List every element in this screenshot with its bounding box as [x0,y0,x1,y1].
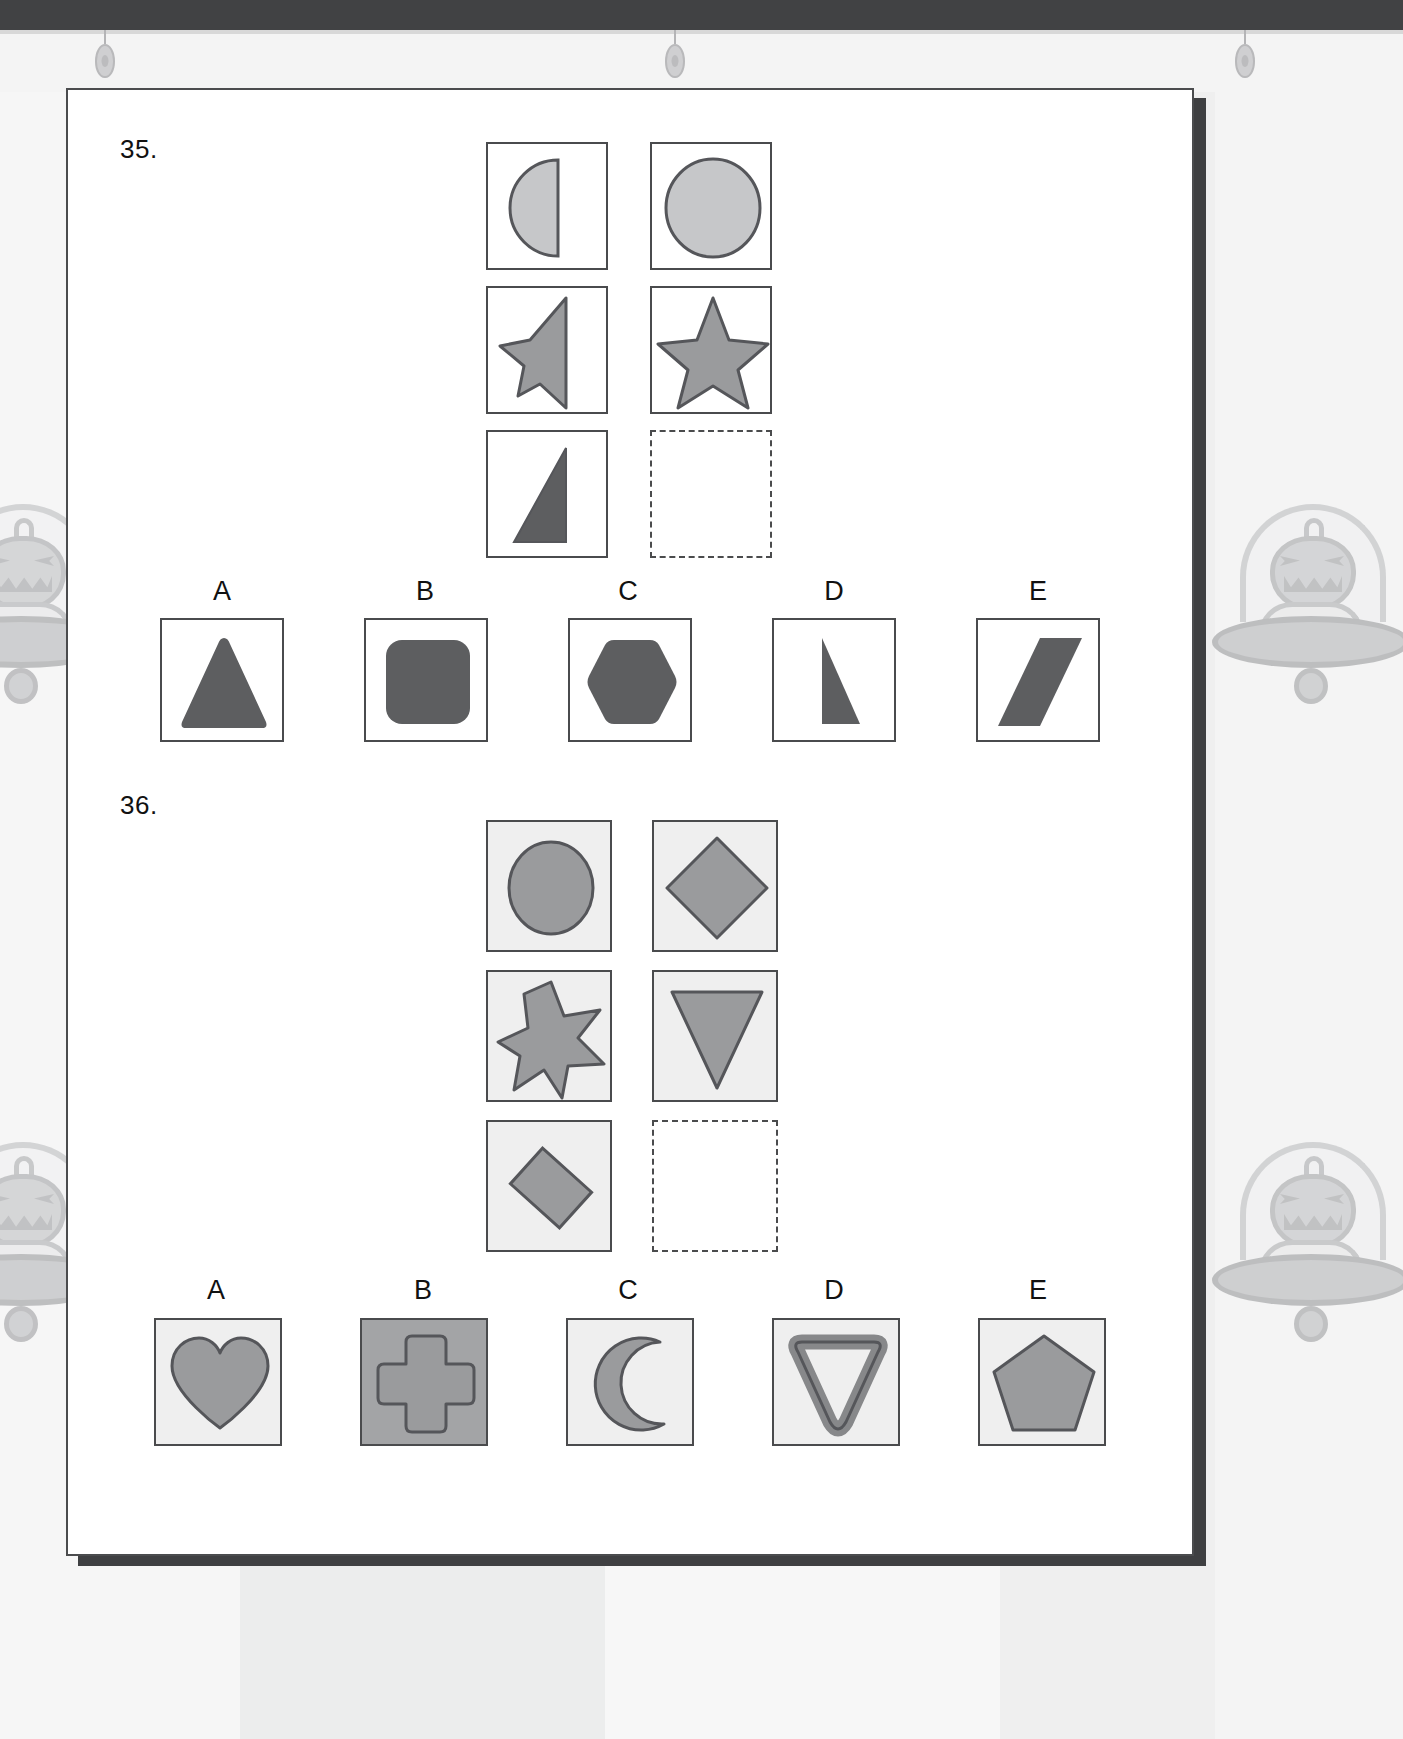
cross-shape [362,1320,490,1448]
seven-point-star-shape [488,972,614,1104]
pumpkin-ufo-icon [1206,498,1403,713]
lamp-bulb [95,44,115,78]
matrix-cell [486,286,608,414]
matrix-cell [652,970,778,1102]
circle-shape [488,822,614,954]
option-box-b-35[interactable] [364,618,488,742]
option-label-b: B [395,576,455,607]
tilted-rectangle-shape [488,1122,614,1254]
worksheet-page: 35. [66,88,1194,1556]
option-box-e-35[interactable] [976,618,1100,742]
option-box-c-36[interactable] [566,1318,694,1446]
triangle-outline-shape [774,1320,902,1448]
option-box-a-36[interactable] [154,1318,282,1446]
background-band [1215,92,1403,1739]
lamp-cord [674,30,676,44]
option-label-d: D [804,1275,864,1306]
option-label-a: A [186,1275,246,1306]
empty-answer-slot-35[interactable] [650,430,772,558]
option-box-d-36[interactable] [772,1318,900,1446]
question-number-36: 36. [120,790,158,821]
option-box-b-36[interactable] [360,1318,488,1446]
option-label-a: A [192,576,252,607]
matrix-cell [486,820,612,952]
down-triangle-shape [654,972,780,1104]
right-triangle-shape [774,620,898,744]
matrix-cell [652,820,778,952]
half-triangle-shape [488,432,610,560]
option-box-c-35[interactable] [568,618,692,742]
matrix-cell [486,970,612,1102]
parallelogram-shape [978,620,1102,744]
lamp-cord [104,30,106,44]
option-label-e: E [1008,1275,1068,1306]
lamp-cord [1244,30,1246,44]
triangle-shape [162,620,286,744]
empty-answer-slot-36[interactable] [652,1120,778,1252]
half-circle-shape [488,144,610,272]
pumpkin-ufo-icon [1206,1136,1403,1351]
option-label-c: C [598,576,658,607]
half-star-shape [488,288,610,416]
option-box-d-35[interactable] [772,618,896,742]
question-number-35: 35. [120,134,158,165]
hanging-lamp-icon [662,30,688,78]
matrix-cell [650,142,772,270]
lamp-bulb [1235,44,1255,78]
rounded-square-shape [366,620,490,744]
diamond-shape [654,822,780,954]
matrix-cell [486,1120,612,1252]
pentagon-shape [980,1320,1108,1448]
option-label-b: B [393,1275,453,1306]
option-label-e: E [1008,576,1068,607]
matrix-cell [486,430,608,558]
crescent-moon-shape [568,1320,696,1448]
option-box-e-36[interactable] [978,1318,1106,1446]
lamp-bulb [665,44,685,78]
hexagon-shape [570,620,694,744]
matrix-cell [486,142,608,270]
option-box-a-35[interactable] [160,618,284,742]
option-label-c: C [598,1275,658,1306]
top-dark-bar [0,0,1403,30]
matrix-cell [650,286,772,414]
hanging-lamp-icon [1232,30,1258,78]
heart-shape [156,1320,284,1448]
circle-shape [652,144,774,272]
option-label-d: D [804,576,864,607]
five-point-star-shape [652,288,774,416]
hanging-lamp-icon [92,30,118,78]
